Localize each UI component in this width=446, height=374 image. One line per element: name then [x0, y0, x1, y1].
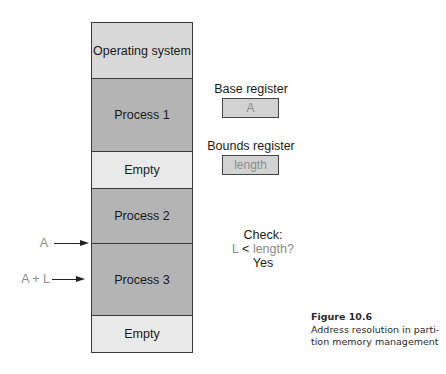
segment-label: Process 3 — [114, 273, 170, 287]
arrow-right-icon — [80, 240, 89, 246]
arrow-right-icon — [76, 276, 85, 282]
bounds-register-label: Bounds register — [202, 139, 300, 153]
segment-label: Empty — [124, 163, 159, 177]
segment-label: Operating system — [93, 44, 191, 58]
pointer-a-plus-l-label: A + L — [10, 272, 50, 286]
bounds-register-value: length — [234, 158, 267, 172]
segment-process-1: Process 1 — [91, 78, 193, 152]
check-title: Check: — [228, 228, 298, 242]
arrow-line — [54, 243, 80, 244]
segment-empty-1: Empty — [91, 151, 193, 189]
pointer-a-plus-l: A + L — [10, 273, 85, 285]
base-register-label: Base register — [210, 82, 292, 96]
segment-label: Empty — [124, 327, 159, 341]
segment-process-2: Process 2 — [91, 188, 193, 244]
segment-label: Process 2 — [114, 209, 170, 223]
base-register-value: A — [246, 101, 254, 115]
caption-line-1: Address resolution in parti- — [311, 324, 446, 337]
segment-operating-system: Operating system — [91, 22, 193, 79]
check-operator: < — [242, 242, 249, 256]
check-lhs: L — [232, 242, 239, 256]
base-register-box: A — [222, 98, 279, 118]
bounds-register-box: length — [222, 155, 279, 175]
segment-process-3: Process 3 — [91, 243, 193, 316]
check-result: Yes — [228, 256, 298, 270]
pointer-a: A — [30, 237, 89, 249]
caption-line-2: tion memory management — [311, 336, 446, 349]
figure-caption: Figure 10.6 Address resolution in parti-… — [311, 311, 446, 349]
arrow-line — [52, 279, 76, 280]
figure-number: Figure 10.6 — [311, 311, 446, 324]
pointer-a-label: A — [30, 236, 48, 250]
segment-empty-2: Empty — [91, 315, 193, 353]
check-condition: L < length? — [228, 242, 298, 256]
segment-label: Process 1 — [114, 108, 170, 122]
bounds-check: Check: L < length? Yes — [228, 228, 298, 270]
check-rhs: length? — [253, 242, 294, 256]
